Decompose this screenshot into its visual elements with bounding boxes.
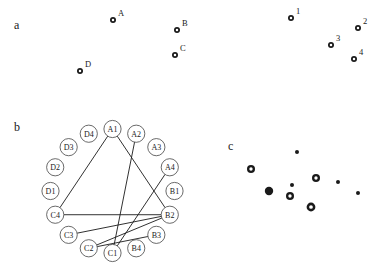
dot-ring-2: [312, 174, 320, 182]
figure-root: a b c ABCD 1234 A1A2A3A4B1B2B3B4C1C2C3C4…: [0, 0, 383, 277]
dot-small-7: [356, 191, 360, 195]
marker-inner: [314, 176, 317, 179]
dot-ring-6: [286, 192, 294, 200]
dot-small-3: [336, 180, 340, 184]
marker-inner: [288, 194, 291, 197]
dot-ring-8: [307, 203, 316, 212]
dot-solid-5: [265, 187, 273, 195]
dot-small-0: [295, 150, 299, 154]
marker-inner: [309, 205, 313, 209]
dot-ring-1: [247, 165, 255, 173]
dot-small-4: [290, 183, 294, 187]
panel-c-dot-cloud: [0, 0, 383, 277]
marker-inner: [249, 167, 252, 170]
